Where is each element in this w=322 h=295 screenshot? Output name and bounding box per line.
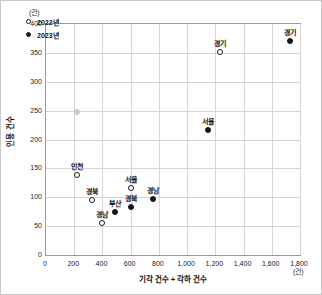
data-point-label: 서울 (125, 174, 137, 184)
data-point[interactable] (74, 109, 80, 115)
y-axis-tick-label: 100 (2, 193, 42, 200)
data-point[interactable] (217, 49, 223, 55)
legend-item-label: 2023년 (37, 30, 59, 40)
x-axis-tick-label: 600 (124, 260, 136, 267)
legend-item[interactable]: 2023년 (25, 28, 59, 41)
scatter-chart-figure: (건) 050100150200250300350400 경기인천서울경북경남경… (0, 0, 322, 295)
data-point-label: 경남 (147, 185, 159, 195)
y-axis-title: 인용 건수 (4, 97, 15, 167)
data-point-label: 경기 (284, 27, 296, 37)
gridline-horizontal (46, 140, 300, 141)
y-axis-tick-label: 350 (2, 48, 42, 55)
open-circle-icon (25, 17, 34, 26)
gridline-horizontal (46, 111, 300, 112)
data-point[interactable] (89, 197, 95, 203)
data-point-label: 경북 (125, 193, 137, 203)
x-axis-tick-labels: 02004006008001,0001,2001,4001,6001,800 (45, 260, 301, 272)
data-point[interactable] (74, 172, 80, 178)
legend-item-label: 2022년 (37, 17, 59, 27)
data-point[interactable] (128, 204, 134, 210)
x-axis-tick-label: 400 (96, 260, 108, 267)
data-point-label: 부산 (109, 198, 121, 208)
gridline-horizontal (46, 197, 300, 198)
data-point-label: 서울 (202, 116, 214, 126)
data-point[interactable] (128, 185, 134, 191)
data-point[interactable] (205, 127, 211, 133)
chart-legend: 2022년2023년 (25, 15, 59, 41)
gridline-vertical (300, 24, 301, 255)
x-axis-tick-label: 1,000 (177, 260, 195, 267)
gridline-horizontal (46, 226, 300, 227)
data-point[interactable] (99, 220, 105, 226)
y-axis-tick-label: 50 (2, 222, 42, 229)
y-axis-tick-label: 300 (2, 77, 42, 84)
x-axis-tick-label: 1,600 (262, 260, 280, 267)
data-point-label: 경남 (96, 209, 108, 219)
x-axis-tick-label: 200 (67, 260, 79, 267)
x-axis-tick-label: 800 (152, 260, 164, 267)
gridline-horizontal (46, 53, 300, 54)
gridline-horizontal (46, 168, 300, 169)
gridline-horizontal (46, 82, 300, 83)
filled-circle-icon (25, 30, 34, 39)
plot-area: 경기인천서울경북경남경기서울경남경북부산 (45, 23, 301, 256)
data-point-label: 경기 (214, 38, 226, 48)
x-axis-tick-label: 0 (43, 260, 47, 267)
x-axis-title: 기각 건수 + 각하 건수 (45, 273, 301, 284)
data-point[interactable] (150, 196, 156, 202)
legend-item[interactable]: 2022년 (25, 15, 59, 28)
data-point[interactable] (287, 38, 293, 44)
x-axis-tick-label: 1,400 (234, 260, 252, 267)
data-point-label: 인천 (71, 161, 83, 171)
y-axis-tick-label: 0 (2, 251, 42, 258)
data-point-label: 경북 (86, 186, 98, 196)
x-axis-tick-label: 1,200 (206, 260, 224, 267)
data-point[interactable] (112, 209, 118, 215)
